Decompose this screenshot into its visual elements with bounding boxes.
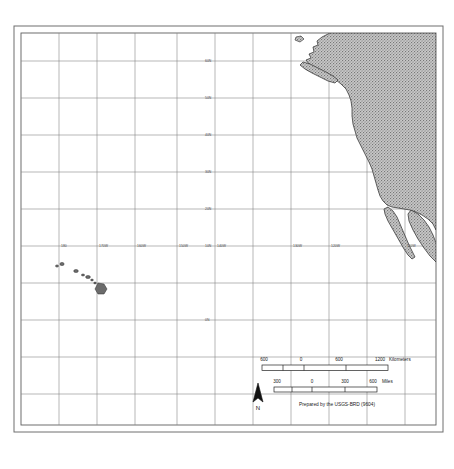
lon-label-110w: 110W xyxy=(407,244,416,248)
km-tick-1: 0 xyxy=(300,357,303,362)
lat-label-20n: 20N xyxy=(205,207,212,211)
lat-label-50n: 50N xyxy=(205,96,212,100)
island-niihau xyxy=(56,265,59,267)
lat-label-60n: 60N xyxy=(205,59,212,63)
lon-label-170w: 170W xyxy=(99,244,109,248)
island-oahu xyxy=(74,270,79,273)
mi-bar-body xyxy=(274,387,377,392)
north-arrow-label: N xyxy=(256,405,260,411)
mi-unit-label: Miles xyxy=(382,379,393,384)
lon-label-120w: 120W xyxy=(331,244,341,248)
mi-tick-3: 600 xyxy=(369,379,377,384)
island-lanai xyxy=(91,279,94,281)
km-tick-3: 1200 xyxy=(375,357,386,362)
island-maui xyxy=(86,276,91,279)
map-figure: 60N 50N 40N 30N 20N 10N 0N 180 170W 160W… xyxy=(0,0,454,469)
mi-tick-1: 0 xyxy=(311,379,314,384)
lon-label-180: 180 xyxy=(61,244,67,248)
km-tick-0: 600 xyxy=(260,357,268,362)
km-bar-body xyxy=(262,365,388,371)
lat-label-30n: 30N xyxy=(205,170,212,174)
lat-label-10n: 10N xyxy=(205,244,212,248)
lon-label-130w: 130W xyxy=(293,244,303,248)
island-kauai xyxy=(60,262,64,265)
lon-label-140w: 140W xyxy=(217,244,227,248)
island-kahoolawe xyxy=(94,282,97,284)
lat-label-40n: 40N xyxy=(205,133,212,137)
km-unit-label: Kilometers xyxy=(389,357,411,362)
lon-label-150w: 150W xyxy=(179,244,189,248)
island-molokai xyxy=(81,274,84,276)
mi-tick-2: 300 xyxy=(341,379,349,384)
lat-label-0n: 0N xyxy=(205,318,210,322)
mi-tick-0: 300 xyxy=(273,379,281,384)
credit-line: Prepared by the USGS-BRD (9604) xyxy=(299,402,375,407)
lon-label-160w: 160W xyxy=(137,244,147,248)
km-tick-2: 600 xyxy=(335,357,343,362)
map-canvas[interactable]: 60N 50N 40N 30N 20N 10N 0N 180 170W 160W… xyxy=(0,0,454,469)
